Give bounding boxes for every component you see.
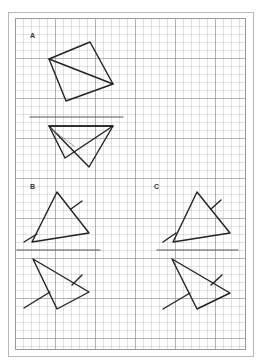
figures-drawing	[0, 0, 260, 364]
triangle-shape-reflected	[33, 259, 89, 309]
triangle-shape-reflected	[172, 259, 230, 309]
stick-line-lower	[24, 234, 37, 242]
figure-b	[17, 192, 100, 309]
dashed-fold-line	[50, 128, 75, 147]
figure-c	[157, 192, 238, 309]
figure-a	[30, 42, 123, 167]
stick-line-upper	[71, 201, 82, 209]
stick-line-lower	[24, 292, 50, 308]
stick-line-upper	[211, 200, 221, 209]
diagonal-line	[49, 59, 113, 84]
triangle-shape	[32, 192, 89, 242]
stick-line-lower	[163, 293, 190, 309]
stick-line-upper	[211, 275, 222, 285]
stick-line-upper	[72, 275, 82, 285]
